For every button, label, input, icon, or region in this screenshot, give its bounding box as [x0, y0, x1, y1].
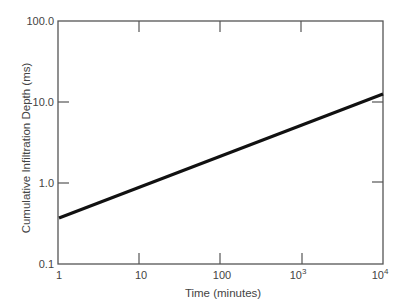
x-tick-label-10000: 104 — [372, 267, 389, 281]
y-tick-label-10: 10.0 — [33, 96, 54, 108]
plot-frame — [58, 21, 383, 264]
infiltration-chart: 100.0 10.0 1.0 0.1 1 10 100 103 104 Time… — [0, 0, 412, 308]
x-ticks-bottom — [139, 253, 302, 264]
y-tick-label-1: 1.0 — [39, 177, 54, 189]
y-tick-label-100: 100.0 — [26, 15, 54, 27]
y-ticks-left — [58, 102, 69, 183]
x-tick-label-1: 1 — [56, 269, 62, 281]
x-tick-label-1000: 103 — [290, 267, 307, 281]
y-axis-title: Cumulative Infiltration Depth (ms) — [20, 63, 32, 234]
y-ticks-right — [372, 102, 383, 182]
x-tick-label-10: 10 — [135, 269, 147, 281]
x-tick-label-100: 100 — [213, 269, 231, 281]
x-ticks-top — [139, 21, 301, 32]
y-tick-label-0.1: 0.1 — [39, 258, 54, 270]
x-axis-title: Time (minutes) — [185, 287, 261, 299]
data-series-line — [59, 94, 383, 218]
